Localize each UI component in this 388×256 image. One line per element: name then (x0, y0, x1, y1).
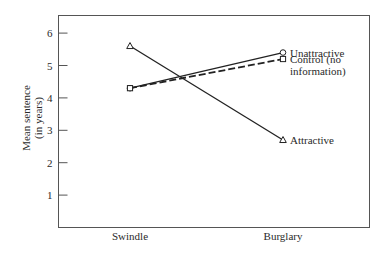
circle-marker (280, 50, 286, 56)
y-tick-label: 4 (47, 92, 53, 104)
y-tick-label: 5 (47, 60, 53, 72)
line-chart: 123456 Mean sentence(in years) SwindleBu… (0, 0, 388, 256)
y-tick-label: 2 (47, 157, 53, 169)
square-marker (280, 56, 285, 61)
series-label: information) (290, 65, 346, 78)
y-axis: 123456 (47, 27, 68, 201)
series-labels: UnattractiveControl (noinformation)Attra… (290, 47, 346, 146)
x-category-label: Burglary (264, 230, 303, 242)
y-tick-label: 3 (47, 124, 53, 136)
x-category-label: Swindle (112, 230, 148, 242)
square-marker (127, 86, 132, 91)
series-label: Attractive (290, 134, 334, 146)
series-line (130, 53, 283, 89)
x-axis-categories: SwindleBurglary (112, 230, 303, 242)
y-tick-label: 6 (47, 27, 53, 39)
series-line (130, 46, 283, 140)
triangle-marker (127, 43, 134, 49)
series-group (127, 43, 287, 143)
y-axis-title: Mean sentence(in years) (20, 85, 45, 151)
y-axis-title-line: Mean sentence (20, 85, 32, 151)
y-axis-title-line: (in years) (32, 97, 45, 139)
series-line (130, 59, 283, 88)
triangle-marker (280, 137, 287, 143)
y-tick-label: 1 (47, 189, 53, 201)
